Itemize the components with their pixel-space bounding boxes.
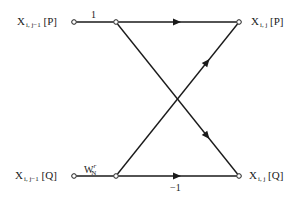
label-base: X [249, 169, 257, 181]
label-subscript: i, j−1 [24, 175, 39, 183]
twiddle-factor-label: WrN [84, 160, 96, 179]
weight-label-minus-1: −1 [170, 182, 181, 193]
label-subscript: i, j [258, 175, 265, 183]
input-label-q: Xi, j−1 [Q] [15, 169, 57, 185]
node-mid-p [114, 20, 119, 25]
label-index: [P] [270, 15, 283, 27]
label-base: X [15, 169, 23, 181]
label-subscript: i, j [260, 21, 267, 29]
output-label-q: Xi, j [Q] [249, 169, 283, 185]
arrow-icon [173, 173, 181, 180]
twiddle-subscript: N [91, 169, 96, 177]
arrow-icon [173, 19, 181, 26]
node-in-p [72, 20, 77, 25]
label-base: X [17, 15, 25, 27]
input-label-p: Xi, j−1 [P] [17, 15, 57, 31]
butterfly-diagram: Xi, j−1 [P] Xi, j−1 [Q] Xi, j [P] Xi, j … [0, 0, 302, 199]
label-base: X [251, 15, 259, 27]
output-label-p: Xi, j [P] [251, 15, 284, 31]
weight-label-1: 1 [91, 9, 96, 20]
node-out-q [237, 174, 242, 179]
label-index: [P] [44, 15, 57, 27]
label-index: [Q] [268, 169, 283, 181]
label-subscript: i, j−1 [26, 21, 41, 29]
label-index: [Q] [42, 169, 57, 181]
node-out-p [237, 20, 242, 25]
node-mid-q [114, 174, 119, 179]
node-in-q [72, 174, 77, 179]
